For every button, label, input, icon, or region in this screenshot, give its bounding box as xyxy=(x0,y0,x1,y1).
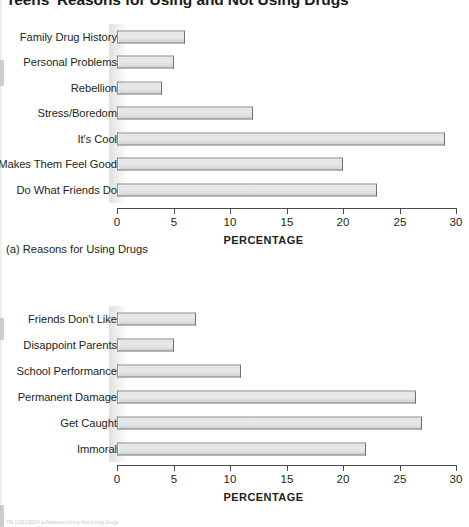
axis-tick-label: 10 xyxy=(224,216,237,228)
axis-tick-label: 30 xyxy=(450,473,463,485)
category-label: School Performance xyxy=(17,365,117,377)
category-label: Disappoint Parents xyxy=(23,339,117,351)
category-label: Makes Them Feel Good xyxy=(0,158,117,170)
bar xyxy=(117,417,422,430)
chart-bar-row: Personal Problems xyxy=(0,50,469,76)
bar xyxy=(117,339,174,352)
chart-bar-row: Do What Friends Do xyxy=(0,177,469,203)
axis-tick xyxy=(287,208,288,214)
bar xyxy=(117,132,445,145)
axis-tick xyxy=(174,208,175,214)
bar xyxy=(117,391,416,404)
axis-tick xyxy=(287,465,288,471)
chart-bar-row: Disappoint Parents xyxy=(0,332,469,358)
category-label: Stress/Boredom xyxy=(37,107,117,119)
bar xyxy=(117,313,196,326)
figure-page: Teens' Reasons for Using and Not Using D… xyxy=(0,0,469,527)
axis-tick-label: 15 xyxy=(281,216,294,228)
axis-tick xyxy=(400,208,401,214)
bar xyxy=(117,443,366,456)
chart-b: Friends Don't LikeDisappoint ParentsScho… xyxy=(0,306,469,481)
category-label: Family Drug History xyxy=(20,31,117,43)
figure-title: Teens' Reasons for Using and Not Using D… xyxy=(6,0,349,9)
category-label: Get Caught xyxy=(60,417,117,429)
axis-tick-label: 30 xyxy=(450,216,463,228)
category-label: Friends Don't Like xyxy=(28,313,117,325)
chart-bar-row: Family Drug History xyxy=(0,24,469,50)
bar xyxy=(117,183,377,196)
axis-tick-label: 20 xyxy=(337,473,350,485)
chart-bar-row: It's Cool xyxy=(0,126,469,152)
axis-tick-label: 5 xyxy=(171,216,177,228)
chart-b-plot-area: Friends Don't LikeDisappoint ParentsScho… xyxy=(0,306,469,461)
bar xyxy=(117,365,241,378)
chart-a-caption: (a) Reasons for Using Drugs xyxy=(6,243,148,255)
axis-tick-label: 25 xyxy=(394,216,407,228)
category-label: Immoral xyxy=(77,443,117,455)
category-label: Personal Problems xyxy=(23,56,117,68)
chart-b-x-axis: PERCENTAGE 051015202530 xyxy=(0,465,469,509)
axis-tick xyxy=(117,465,118,471)
axis-tick-label: 10 xyxy=(224,473,237,485)
chart-bar-row: Get Caught xyxy=(0,410,469,436)
chart-bar-row: Immoral xyxy=(0,436,469,462)
axis-tick xyxy=(230,465,231,471)
chart-bar-row: Stress/Boredom xyxy=(0,101,469,127)
axis-tick xyxy=(456,465,457,471)
bar xyxy=(117,30,185,43)
axis-tick-label: 20 xyxy=(337,216,350,228)
chart-bar-row: Rebellion xyxy=(0,75,469,101)
axis-tick-label: 5 xyxy=(171,473,177,485)
chart-bar-row: Makes Them Feel Good xyxy=(0,152,469,178)
axis-tick-label: 25 xyxy=(394,473,407,485)
axis-tick xyxy=(343,208,344,214)
chart-a: Family Drug HistoryPersonal ProblemsRebe… xyxy=(0,24,469,214)
category-label: Rebellion xyxy=(71,82,117,94)
bar xyxy=(117,56,174,69)
axis-tick-label: 15 xyxy=(281,473,294,485)
axis-tick xyxy=(400,465,401,471)
axis-tick xyxy=(456,208,457,214)
chart-b-axis-title: PERCENTAGE xyxy=(0,491,469,503)
axis-tick xyxy=(117,208,118,214)
category-label: Do What Friends Do xyxy=(17,184,117,196)
chart-bar-row: Permanent Damage xyxy=(0,384,469,410)
category-label: Permanent Damage xyxy=(18,391,117,403)
axis-tick xyxy=(174,465,175,471)
bar xyxy=(117,158,343,171)
axis-tick xyxy=(230,208,231,214)
category-label: It's Cool xyxy=(77,133,117,145)
chart-bar-row: School Performance xyxy=(0,358,469,384)
bar xyxy=(117,107,253,120)
chart-bar-row: Friends Don't Like xyxy=(0,306,469,332)
page-footer-note: TM 12/21/2024 a-Reasons-Using-Not-Using-… xyxy=(6,519,186,527)
bar xyxy=(117,81,162,94)
chart-a-plot-area: Family Drug HistoryPersonal ProblemsRebe… xyxy=(0,24,469,204)
axis-tick xyxy=(343,465,344,471)
axis-tick-label: 0 xyxy=(114,216,120,228)
axis-tick-label: 0 xyxy=(114,473,120,485)
